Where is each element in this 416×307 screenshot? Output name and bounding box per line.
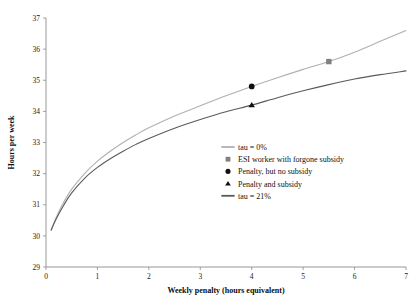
y-tick-label: 29 [33,263,41,272]
legend-item: ESI worker with forgone subsidy [226,155,344,164]
chart-legend: tau = 0%ESI worker with forgone subsidyP… [221,143,344,201]
y-tick-label: 31 [33,200,41,209]
legend-marker-circle [225,169,230,174]
x-tick-label: 0 [44,272,48,281]
x-tick-label: 6 [353,272,357,281]
legend-item: tau = 0% [221,143,267,152]
x-tick-label: 7 [404,272,408,281]
chart-container: 293031323334353637 01234567 Weekly penal… [0,0,416,307]
y-axis-title: Hours per week [7,115,16,170]
y-tick-labels: 293031323334353637 [33,14,41,272]
legend-label: tau = 0% [238,143,267,152]
y-tick-label: 36 [33,45,41,54]
legend-marker-square [226,157,231,162]
legend-label: Penalty, but no subsidy [238,167,312,176]
x-tick-label: 1 [96,272,100,281]
x-tick-marks [46,267,406,270]
legend-label: Penalty and subsidy [238,180,302,189]
x-tick-label: 4 [250,272,254,281]
legend-marker-triangle [225,181,231,186]
x-tick-label: 2 [147,272,151,281]
y-tick-label: 32 [33,169,41,178]
y-tick-label: 37 [33,14,41,23]
y-axis: 293031323334353637 [33,14,47,272]
x-tick-label: 5 [301,272,305,281]
legend-item: Penalty and subsidy [225,180,302,189]
legend-label: tau = 21% [238,192,271,201]
legend-label: ESI worker with forgone subsidy [238,155,344,164]
y-tick-label: 35 [33,76,41,85]
chart-svg: 293031323334353637 01234567 Weekly penal… [0,0,416,307]
y-tick-label: 33 [33,138,41,147]
data-curves [51,30,406,230]
legend-item: Penalty, but no subsidy [225,167,312,176]
legend-item: tau = 21% [221,192,271,201]
point-marker-circle [249,84,255,90]
x-axis: 01234567 [44,267,408,281]
point-marker-square [326,59,331,64]
x-axis-title: Weekly penalty (hours equivalent) [167,286,284,295]
y-tick-label: 34 [33,107,41,116]
x-tick-label: 3 [198,272,202,281]
x-tick-labels: 01234567 [44,272,408,281]
curve-tau-0- [51,30,406,229]
y-tick-label: 30 [33,232,41,241]
